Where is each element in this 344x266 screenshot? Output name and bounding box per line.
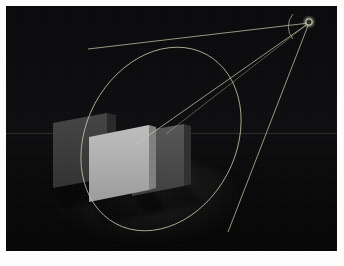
cone-ray-mid-left[interactable] bbox=[135, 23, 309, 145]
cone-ray-upper-left[interactable] bbox=[88, 23, 309, 49]
perspective-viewport[interactable] bbox=[6, 6, 337, 251]
light-origin-dot[interactable] bbox=[306, 19, 312, 25]
screenshot-root bbox=[0, 0, 344, 266]
panel-center-lit[interactable] bbox=[89, 125, 156, 202]
cone-angle-arc bbox=[288, 14, 293, 39]
light-origin-handle[interactable] bbox=[302, 15, 316, 29]
scene-geometry bbox=[6, 6, 337, 251]
panel-right-side bbox=[184, 124, 191, 186]
panel-center-lit-face bbox=[89, 125, 149, 202]
